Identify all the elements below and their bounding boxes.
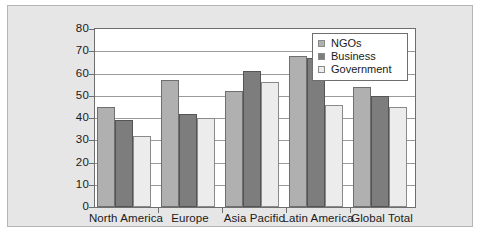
chart-legend: NGOsBusinessGovernment [312,33,408,81]
bar[interactable] [353,87,371,207]
bar-group [95,29,159,207]
bar[interactable] [115,120,133,207]
y-axis-tick [89,51,94,52]
y-axis-tick-label: 70 [63,46,89,58]
x-axis-category-label: Asia Pacific [224,212,285,224]
bar[interactable] [179,114,197,207]
bar[interactable] [161,80,179,207]
bar-group [159,29,223,207]
legend-item[interactable]: Business [318,50,402,63]
bar[interactable] [225,91,243,207]
y-axis-tick [89,96,94,97]
x-axis-labels: North AmericaEuropeAsia PacificLatin Ame… [94,212,416,230]
bar-group [223,29,287,207]
bar[interactable] [289,56,307,207]
y-axis-tick-label: 60 [63,68,89,80]
legend-label: NGOs [331,38,362,49]
legend-swatch-icon [318,40,325,47]
y-axis-labels: 01020304050607080 [63,28,89,208]
legend-label: Business [331,51,376,62]
y-axis-tick [89,185,94,186]
y-axis-tick-label: 0 [63,201,89,213]
bar[interactable] [371,96,389,207]
y-axis-tick [89,163,94,164]
chart-screenshot: 01020304050607080 North AmericaEuropeAsi… [0,0,480,245]
bar[interactable] [97,107,115,207]
y-axis-tick [89,74,94,75]
bar[interactable] [133,136,151,207]
x-axis-category-label: North America [89,212,163,224]
y-axis-tick-label: 40 [63,112,89,124]
x-axis-category-label: Global Total [351,212,413,224]
x-axis-category-label: Latin America [283,212,354,224]
legend-swatch-icon [318,53,325,60]
y-axis-tick-label: 80 [63,23,89,35]
legend-item[interactable]: Government [318,63,402,76]
legend-swatch-icon [318,66,325,73]
y-axis-tick-label: 20 [63,157,89,169]
legend-label: Government [331,64,392,75]
y-axis-tick-label: 50 [63,90,89,102]
bar[interactable] [325,105,343,207]
y-axis-tick-label: 10 [63,179,89,191]
x-axis-category-label: Europe [171,212,209,224]
y-axis-tick [89,140,94,141]
bar[interactable] [197,118,215,207]
y-axis-tick [89,207,94,208]
bottom-strip [7,229,473,239]
figure-panel: 01020304050607080 North AmericaEuropeAsi… [7,5,473,227]
legend-item[interactable]: NGOs [318,37,402,50]
y-axis-tick [89,29,94,30]
y-axis-tick [89,118,94,119]
bar[interactable] [243,71,261,207]
bar[interactable] [389,107,407,207]
y-axis-tick-label: 30 [63,135,89,147]
bar[interactable] [261,82,279,207]
